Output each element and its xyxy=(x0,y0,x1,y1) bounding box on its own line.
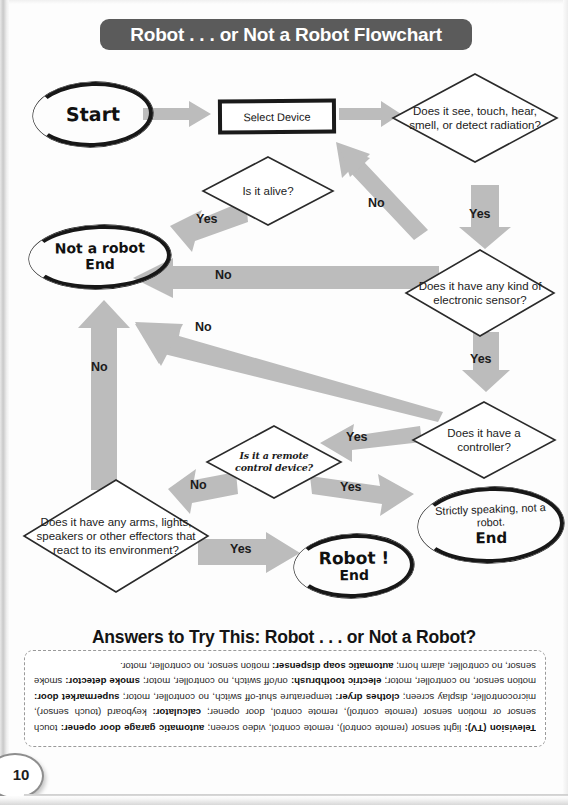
node-strictly-not-a-robot-end: Strictly speaking, not a robot. End xyxy=(417,484,566,565)
arrow-sensor-yes-down: Yes xyxy=(460,332,512,394)
arrow-label: No xyxy=(215,268,232,282)
node-decision-senses-label: Does it see, touch, hear, smell, or dete… xyxy=(394,104,556,132)
arrow-label: No xyxy=(368,196,385,210)
scan-edge-bottom xyxy=(0,796,568,805)
node-robot-end: Robot ! End xyxy=(293,532,415,600)
node-decision-remote-label: Is it a remote control device? xyxy=(215,450,333,473)
page-canvas: Robot . . . or Not a Robot Flowchart Yes… xyxy=(0,0,568,805)
node-select-device: Select Device xyxy=(218,99,336,135)
node-decision-senses: Does it see, touch, hear, smell, or dete… xyxy=(391,72,559,164)
arrow-controller-no-upleft: No xyxy=(133,300,445,420)
node-start: Start xyxy=(32,80,154,149)
page-title-banner: Robot . . . or Not a Robot Flowchart xyxy=(100,19,472,50)
page-number: 10 xyxy=(0,753,40,795)
node-decision-controller-label: Does it have a controller? xyxy=(416,426,552,454)
scan-edge-right xyxy=(563,0,568,805)
answers-box: Television (TV): light sensor (remote co… xyxy=(24,650,546,747)
arrow-label: No xyxy=(195,320,212,334)
answers-heading: Answers to Try This: Robot . . . or Not … xyxy=(0,627,568,648)
arrow-label: No xyxy=(91,360,108,374)
arrow-label: Yes xyxy=(470,352,492,366)
node-decision-effectors-label: Does it have any arms, lights, speakers … xyxy=(25,515,207,557)
node-strictly-label: Strictly speaking, not a robot. xyxy=(421,501,560,532)
arrow-effectors-yes-right: Yes xyxy=(198,532,302,574)
node-select-device-label: Select Device xyxy=(243,110,310,122)
scan-edge-top xyxy=(0,0,568,4)
node-decision-alive-label: Is it alive? xyxy=(204,184,332,198)
node-decision-controller: Does it have a controller? xyxy=(411,400,557,480)
arrow-effectors-no-up: No xyxy=(76,300,132,492)
node-decision-sensor-label: Does it have any kind of electronic sens… xyxy=(408,279,552,307)
arrow-label: Yes xyxy=(230,542,252,556)
arrow-sensor-no-left: No xyxy=(133,258,439,298)
scan-edge-left xyxy=(0,0,9,805)
node-decision-alive: Is it alive? xyxy=(201,155,335,227)
node-start-label: Start xyxy=(66,104,120,126)
answers-text: Television (TV): light sensor (remote co… xyxy=(25,651,545,743)
arrow-senses-yes-down: Yes xyxy=(457,185,513,251)
arrow-label: Yes xyxy=(469,207,491,221)
node-decision-remote: Is it a remote control device? xyxy=(205,424,343,500)
node-not-a-robot-end-label: End xyxy=(85,257,115,273)
node-robot-label: Robot ! xyxy=(318,548,389,568)
node-decision-effectors: Does it have any arms, lights, speakers … xyxy=(22,478,210,594)
node-decision-sensor: Does it have any kind of electronic sens… xyxy=(404,248,556,338)
node-not-a-robot-label: Not a robot xyxy=(55,241,145,258)
arrow-start-to-select xyxy=(143,101,213,127)
node-robot-end-label: End xyxy=(339,568,369,584)
arrow-label: Yes xyxy=(340,480,362,494)
arrow-label: Yes xyxy=(346,430,368,444)
page-title: Robot . . . or Not a Robot Flowchart xyxy=(130,24,442,46)
node-strictly-end-label: End xyxy=(476,530,508,547)
page-number-badge: 10 xyxy=(0,753,42,797)
